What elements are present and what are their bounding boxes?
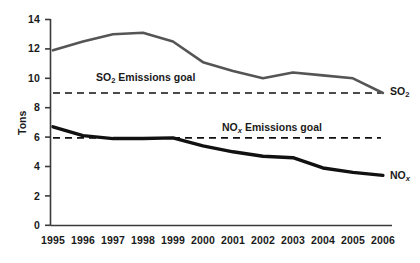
x-tick-label: 1999 bbox=[156, 234, 190, 246]
so2-goal-annotation-sub: 2 bbox=[111, 76, 115, 85]
emissions-line-chart: Tons 14 12 10 8 6 4 2 0 1995 1996 1997 1… bbox=[0, 0, 420, 263]
chart-plot-area bbox=[0, 0, 420, 263]
y-tick-label: 12 bbox=[14, 42, 40, 54]
x-tick-label: 2003 bbox=[276, 234, 310, 246]
nox-goal-annotation: NOx Emissions goal bbox=[222, 121, 322, 133]
x-tick-label: 2002 bbox=[246, 234, 280, 246]
y-tick-label: 6 bbox=[14, 131, 40, 143]
x-tick-label: 1995 bbox=[36, 234, 70, 246]
so2-goal-annotation-main: SO bbox=[96, 71, 111, 83]
y-tick-label: 14 bbox=[14, 13, 40, 25]
series-end-label-so2: SO2 bbox=[390, 85, 409, 97]
series-end-label-nox: NOx bbox=[390, 169, 410, 181]
series-end-label-nox-sub: x bbox=[406, 174, 410, 183]
series-line-so2 bbox=[53, 33, 383, 93]
x-tick-label: 2004 bbox=[306, 234, 340, 246]
series-line-nox bbox=[53, 127, 383, 176]
y-tick-label: 8 bbox=[14, 101, 40, 113]
series-end-label-so2-main: SO bbox=[390, 85, 405, 97]
x-tick-label: 1998 bbox=[126, 234, 160, 246]
series-end-label-nox-main: NO bbox=[390, 169, 406, 181]
x-tick-label: 2001 bbox=[216, 234, 250, 246]
y-tick-label: 4 bbox=[14, 160, 40, 172]
nox-goal-annotation-tail: Emissions goal bbox=[242, 121, 322, 133]
x-tick-label: 2000 bbox=[186, 234, 220, 246]
series-end-label-so2-sub: 2 bbox=[405, 90, 409, 99]
so2-goal-annotation: SO2 Emissions goal bbox=[96, 71, 195, 83]
nox-goal-annotation-sub: x bbox=[238, 126, 242, 135]
so2-goal-annotation-tail: Emissions goal bbox=[115, 71, 195, 83]
x-tick-label: 1997 bbox=[96, 234, 130, 246]
nox-goal-annotation-main: NO bbox=[222, 121, 238, 133]
x-tick-label: 2006 bbox=[366, 234, 400, 246]
y-tick-marks bbox=[45, 20, 51, 226]
x-tick-label: 1996 bbox=[66, 234, 100, 246]
y-tick-label: 2 bbox=[14, 190, 40, 202]
x-tick-label: 2005 bbox=[336, 234, 370, 246]
y-tick-label: 10 bbox=[14, 72, 40, 84]
y-tick-label: 0 bbox=[14, 219, 40, 231]
